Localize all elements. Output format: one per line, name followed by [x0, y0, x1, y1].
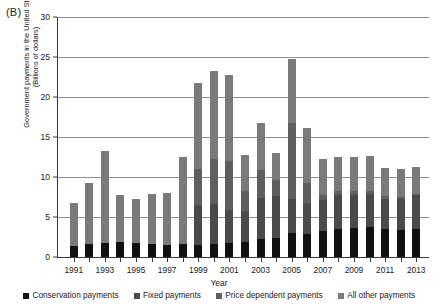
- x-axis-title: Year: [0, 278, 438, 288]
- y-tick-label-0: 0: [45, 252, 57, 262]
- x-tick-label-2013: 2013: [407, 265, 426, 275]
- x-tick-mark-1995: [136, 258, 137, 262]
- y-tick-label-15: 15: [40, 132, 57, 142]
- bar-segment: [225, 161, 233, 210]
- bar-segment: [85, 183, 93, 244]
- bar-segment: [148, 244, 156, 257]
- bar-segment: [210, 204, 218, 244]
- bar-segment: [194, 245, 202, 257]
- bar-segment: [366, 227, 374, 257]
- bar-segment: [381, 229, 389, 257]
- bar-2000: [210, 71, 218, 257]
- x-tick-label-1997: 1997: [158, 265, 177, 275]
- bar-segment: [303, 203, 311, 234]
- x-tick-mark-2004: [276, 258, 277, 262]
- bar-2007: [319, 159, 327, 257]
- x-tick-mark-2001: [229, 258, 230, 262]
- bar-segment: [257, 198, 265, 240]
- bar-segment: [303, 234, 311, 257]
- bar-segment: [288, 199, 296, 233]
- bar-segment: [366, 156, 374, 191]
- legend-item: Conservation payments: [23, 291, 119, 300]
- bar-segment: [334, 195, 342, 229]
- legend-swatch-icon: [134, 293, 140, 299]
- bar-segment: [334, 229, 342, 257]
- bar-segment: [350, 195, 358, 229]
- bar-1999: [194, 83, 202, 257]
- y-axis-title: Government payments in the United States…: [21, 0, 43, 147]
- bar-2003: [257, 123, 265, 257]
- bar-segment: [319, 159, 327, 195]
- bar-2008: [334, 157, 342, 257]
- bar-2006: [303, 128, 311, 257]
- bar-segment: [350, 228, 358, 257]
- x-tick-mark-1994: [120, 258, 121, 262]
- x-tick-mark-1998: [183, 258, 184, 262]
- government-payments-bar-chart: (B) Government payments in the United St…: [0, 0, 438, 304]
- bar-2004: [272, 153, 280, 257]
- y-tick-label-20: 20: [40, 92, 57, 102]
- bar-segment: [210, 244, 218, 257]
- x-tick-mark-2007: [323, 258, 324, 262]
- bar-1998: [179, 157, 187, 257]
- bar-1993: [101, 151, 109, 257]
- panel-label: (B): [6, 6, 21, 18]
- bar-segment: [179, 157, 187, 244]
- bar-segment: [194, 205, 202, 245]
- legend-item: All other payments: [338, 291, 415, 300]
- bar-segment: [257, 123, 265, 170]
- bar-segment: [241, 155, 249, 191]
- bar-segment: [272, 153, 280, 180]
- bar-segment: [288, 123, 296, 199]
- bar-segment: [272, 196, 280, 238]
- x-tick-label-1999: 1999: [189, 265, 208, 275]
- bar-2013: [412, 167, 420, 257]
- bar-2012: [397, 169, 405, 257]
- x-tick-mark-2000: [214, 258, 215, 262]
- x-tick-mark-2003: [261, 258, 262, 262]
- bar-segment: [85, 244, 93, 257]
- bar-segment: [70, 246, 78, 257]
- bar-segment: [225, 210, 233, 243]
- bar-segment: [334, 157, 342, 191]
- bar-segment: [397, 199, 405, 230]
- x-tick-label-2003: 2003: [251, 265, 270, 275]
- plot-area: 051015202530 199119931995199719992001200…: [57, 17, 429, 258]
- x-tick-label-2005: 2005: [282, 265, 301, 275]
- x-tick-mark-2002: [245, 258, 246, 262]
- x-tick-label-2001: 2001: [220, 265, 239, 275]
- bar-2009: [350, 157, 358, 257]
- bar-2011: [381, 168, 389, 257]
- bar-segment: [194, 169, 202, 205]
- bar-segment: [101, 151, 109, 243]
- x-axis-title-text: Year: [211, 278, 228, 288]
- legend-item: Fixed payments: [134, 291, 201, 300]
- bar-segment: [210, 159, 218, 204]
- y-axis-title-line-2: (Billions of dollars): [32, 27, 41, 87]
- y-axis-line: [57, 17, 58, 258]
- bar-2010: [366, 156, 374, 257]
- x-tick-mark-2008: [338, 258, 339, 262]
- bar-segment: [70, 203, 78, 245]
- x-tick-label-2009: 2009: [345, 265, 364, 275]
- bar-segment: [288, 233, 296, 257]
- x-tick-mark-2012: [401, 258, 402, 262]
- bar-segment: [194, 83, 202, 169]
- bar-segment: [101, 243, 109, 257]
- bar-1992: [85, 183, 93, 257]
- bar-1991: [70, 203, 78, 257]
- bar-segment: [257, 170, 265, 198]
- y-tick-label-30: 30: [40, 12, 57, 22]
- bar-2001: [225, 75, 233, 257]
- bar-1996: [148, 194, 156, 257]
- x-tick-label-1995: 1995: [127, 265, 146, 275]
- x-tick-mark-2010: [370, 258, 371, 262]
- x-tick-mark-2011: [385, 258, 386, 262]
- bar-segment: [366, 194, 374, 228]
- bar-series-group: [57, 17, 429, 258]
- bar-segment: [210, 71, 218, 160]
- bar-segment: [350, 157, 358, 191]
- bar-segment: [272, 238, 280, 257]
- x-tick-mark-2005: [292, 258, 293, 262]
- bar-segment: [225, 75, 233, 161]
